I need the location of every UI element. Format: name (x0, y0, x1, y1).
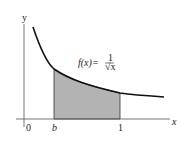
lower-bound-label: b (52, 122, 57, 133)
function-label: f(x)= (78, 57, 99, 69)
shaded-region (54, 69, 120, 119)
origin-label: 0 (26, 122, 31, 133)
fraction-denominator: √x (105, 61, 116, 72)
upper-bound-label: 1 (118, 122, 123, 133)
y-axis-label: y (22, 12, 27, 23)
x-axis-label: x (171, 116, 177, 127)
diagram: y x 0 b 1 f(x)= 1 √x (0, 0, 183, 142)
